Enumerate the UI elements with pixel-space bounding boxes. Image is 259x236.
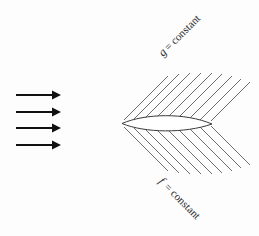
g-constant-line — [156, 73, 201, 118]
g-constant-line-group — [124, 73, 250, 121]
characteristic-grid-diagram: g = constant f = constant — [0, 0, 259, 236]
f-constant-line — [189, 128, 232, 171]
g-constant-label-value: constant — [168, 12, 202, 46]
figure-canvas: g = constant f = constant — [0, 0, 259, 236]
flow-arrow — [16, 124, 61, 133]
f-constant-line — [178, 129, 222, 173]
g-constant-line — [211, 82, 250, 121]
f-constant-line — [124, 127, 168, 171]
f-constant-line — [156, 129, 201, 174]
f-constant-line — [145, 129, 190, 174]
f-constant-line — [200, 127, 241, 168]
f-constant-label-value: constant — [169, 187, 203, 221]
flow-arrow-head — [52, 141, 61, 150]
g-constant-line — [189, 76, 232, 119]
g-constant-label: g = constant — [155, 11, 203, 59]
g-constant-line — [145, 73, 190, 118]
flow-arrow-head — [52, 91, 61, 100]
flow-arrow — [16, 108, 61, 117]
g-constant-line — [178, 74, 222, 118]
f-constant-line — [211, 126, 250, 165]
flow-arrow-head — [52, 124, 61, 133]
flow-arrow-head — [52, 108, 61, 117]
flow-arrow — [16, 91, 61, 100]
f-constant-label: f = constant — [156, 174, 204, 222]
f-constant-line-group — [124, 126, 250, 174]
freestream-flow-arrows — [16, 91, 61, 150]
g-constant-line — [200, 79, 241, 120]
g-constant-line — [124, 76, 168, 120]
flow-arrow — [16, 141, 61, 150]
